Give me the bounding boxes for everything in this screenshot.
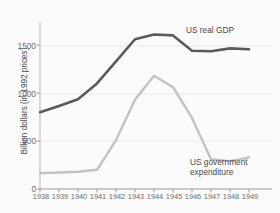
- series-annotation-gov-line1: US government: [190, 157, 248, 167]
- series-annotation-government-expenditure: US governmentexpenditure: [190, 158, 248, 178]
- series-annotation-gdp: US real GDP: [186, 26, 234, 36]
- chart-figure: Billion dollars (in 1992 prices) 1500 10…: [0, 0, 280, 213]
- y-axis-ticks: [37, 45, 41, 189]
- series-annotation-gov-line2: expenditure: [190, 167, 233, 177]
- gridlines: [40, 46, 272, 141]
- plot-area: Billion dollars (in 1992 prices) 1500 10…: [0, 0, 280, 213]
- x-axis-ticks: [40, 189, 249, 193]
- chart-canvas: [0, 0, 280, 213]
